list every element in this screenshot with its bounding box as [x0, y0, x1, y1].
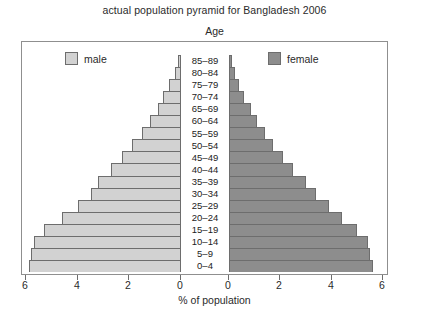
legend-label-male: male [84, 53, 107, 65]
female-bar [229, 176, 306, 188]
xtick-right-2: 2 [276, 279, 282, 291]
bar-row [26, 79, 181, 91]
female-bar [229, 224, 357, 236]
male-bar [132, 139, 181, 151]
female-bar [229, 188, 316, 200]
bar-row [229, 127, 383, 139]
bar-row [229, 176, 383, 188]
male-bar [158, 103, 181, 115]
female-bar-group [229, 55, 383, 272]
age-label: 85–89 [181, 55, 229, 67]
female-bar [229, 127, 265, 139]
age-label: 5–9 [181, 248, 229, 260]
bar-row [229, 79, 383, 91]
axis-tick-mark [279, 275, 280, 280]
age-label: 0–4 [181, 260, 229, 272]
female-bar [229, 260, 373, 272]
female-bar [229, 236, 368, 248]
male-bar [98, 176, 181, 188]
female-bar [229, 115, 257, 127]
plot-area: 0–45–910–1415–1920–2425–2930–3435–3940–4… [21, 41, 388, 275]
axis-tick-mark [382, 275, 383, 280]
bar-row [229, 212, 383, 224]
bar-row [26, 200, 181, 212]
female-bar [229, 139, 273, 151]
axis-tick-mark [228, 275, 229, 280]
female-bar [229, 200, 329, 212]
male-bar [44, 224, 181, 236]
female-bar [229, 91, 244, 103]
legend-swatch-male-icon [65, 52, 78, 65]
bar-row [229, 260, 383, 272]
age-label: 10–14 [181, 236, 229, 248]
bar-row [229, 163, 383, 175]
legend-male: male [65, 52, 107, 65]
bar-row [26, 163, 181, 175]
female-bar [229, 79, 239, 91]
age-label: 25–29 [181, 200, 229, 212]
age-label: 15–19 [181, 224, 229, 236]
male-bar [150, 115, 181, 127]
axis-tick-mark [25, 275, 26, 280]
bar-row [229, 236, 383, 248]
female-bar [229, 163, 293, 175]
xtick-left-4: 4 [74, 279, 80, 291]
female-bar [229, 248, 370, 260]
age-label: 55–59 [181, 127, 229, 139]
axis-tick-mark [180, 275, 181, 280]
population-pyramid-chart: actual population pyramid for Bangladesh… [0, 0, 429, 317]
male-bar [111, 163, 181, 175]
male-bar-group [26, 55, 181, 272]
bar-row [26, 151, 181, 163]
age-label: 70–74 [181, 91, 229, 103]
age-group-labels: 0–45–910–1415–1920–2425–2930–3435–3940–4… [181, 55, 229, 272]
female-bar [229, 67, 235, 79]
female-bar [229, 151, 283, 163]
bar-row [229, 188, 383, 200]
age-label: 80–84 [181, 67, 229, 79]
bar-row [26, 103, 181, 115]
bar-row [229, 103, 383, 115]
xtick-right-4: 4 [328, 279, 334, 291]
age-label: 50–54 [181, 139, 229, 151]
chart-title: actual population pyramid for Bangladesh… [0, 4, 429, 16]
bar-row [26, 188, 181, 200]
bar-row [229, 91, 383, 103]
female-panel [229, 42, 383, 274]
male-bar [169, 79, 181, 91]
female-bar [229, 103, 251, 115]
bar-row [229, 248, 383, 260]
male-bar [142, 127, 181, 139]
bar-row [26, 139, 181, 151]
bar-row [26, 248, 181, 260]
x-axis-title: % of population [0, 294, 429, 306]
bar-row [26, 91, 181, 103]
bar-row [26, 260, 181, 272]
axis-tick-mark [128, 275, 129, 280]
xtick-left-2: 2 [125, 279, 131, 291]
bar-row [229, 224, 383, 236]
age-label: 30–34 [181, 188, 229, 200]
age-label: 45–49 [181, 151, 229, 163]
female-bar [229, 55, 232, 67]
bar-row [26, 67, 181, 79]
bar-row [229, 67, 383, 79]
bar-row [26, 236, 181, 248]
male-bar [34, 236, 181, 248]
bar-row [26, 115, 181, 127]
female-bar [229, 212, 342, 224]
legend-female: female [268, 52, 319, 65]
male-bar [62, 212, 181, 224]
bar-row [26, 176, 181, 188]
age-label: 20–24 [181, 212, 229, 224]
xtick-right-0: 0 [225, 279, 231, 291]
bar-row [26, 212, 181, 224]
xtick-left-6: 6 [22, 279, 28, 291]
xtick-right-6: 6 [379, 279, 385, 291]
bar-row [26, 127, 181, 139]
age-label: 60–64 [181, 115, 229, 127]
age-label: 40–44 [181, 163, 229, 175]
male-bar [122, 151, 181, 163]
male-bar [31, 248, 181, 260]
bar-row [229, 139, 383, 151]
